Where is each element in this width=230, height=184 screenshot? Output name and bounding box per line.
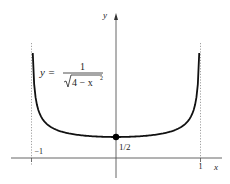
y-axis-label: y	[102, 10, 107, 20]
function-plot: 1/2 x y −1 1 y = 1 4 − x 2	[0, 0, 230, 184]
minimum-point-label: 1/2	[119, 142, 131, 152]
y-axis-arrow-icon	[114, 13, 118, 20]
x-axis-label: x	[213, 162, 218, 172]
function-label-numerator: 1	[80, 61, 85, 72]
function-label: y = 1 4 − x 2	[39, 61, 103, 88]
function-label-exponent: 2	[100, 75, 103, 81]
function-label-lhs: y =	[39, 66, 55, 78]
minimum-point	[113, 134, 119, 140]
function-label-radicand: 4 − x	[72, 77, 93, 88]
x-tick-label-neg1: −1	[35, 147, 44, 156]
x-tick-label-1: 1	[199, 162, 203, 171]
